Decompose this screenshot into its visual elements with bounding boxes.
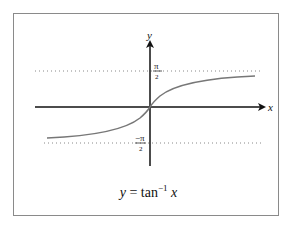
lower-tick-numerator: −π [135, 133, 145, 143]
y-axis-label: y [146, 29, 152, 41]
upper-tick-numerator: π [154, 61, 159, 71]
caption-eq: = tan [126, 185, 158, 200]
upper-tick-denominator: 2 [155, 73, 159, 81]
lower-tick-denominator: 2 [139, 145, 143, 153]
caption-exponent: −1 [158, 183, 168, 193]
x-axis-label: x [267, 101, 273, 113]
caption-rhs: x [168, 185, 178, 200]
figure-caption: y = tan−1 x [0, 183, 297, 201]
